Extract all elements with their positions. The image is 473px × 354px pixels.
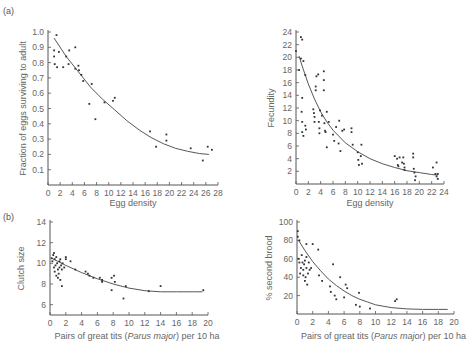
data-point bbox=[300, 267, 302, 269]
data-point bbox=[319, 132, 321, 134]
data-point bbox=[304, 260, 306, 262]
data-point bbox=[360, 155, 362, 157]
y-tick-label: 22 bbox=[283, 40, 293, 50]
data-point bbox=[297, 236, 299, 238]
x-tick-label: 8 bbox=[343, 187, 348, 197]
data-point bbox=[54, 258, 56, 260]
y-axis-label: Fecundity bbox=[266, 88, 276, 128]
data-point bbox=[351, 127, 353, 129]
data-point bbox=[355, 304, 357, 306]
data-point bbox=[415, 176, 417, 178]
x-tick-label: 22 bbox=[427, 187, 437, 197]
x-tick-label: 28 bbox=[213, 188, 223, 198]
data-point bbox=[62, 66, 64, 68]
y-tick-label: 2 bbox=[287, 166, 292, 176]
y-tick-label: 0.9 bbox=[32, 42, 44, 52]
data-point bbox=[202, 160, 204, 162]
y-axis-label: Fraction of eggs surviving to adult bbox=[18, 41, 28, 176]
y-tick-label: 18 bbox=[283, 65, 293, 75]
y-tick-label: 0.3 bbox=[32, 134, 44, 144]
fit-curve bbox=[54, 38, 209, 154]
x-tick-label: 2 bbox=[310, 317, 315, 327]
y-tick-label: 10 bbox=[283, 116, 293, 126]
x-tick-label: 16 bbox=[140, 188, 150, 198]
y-tick-label: 12 bbox=[283, 103, 293, 113]
data-point bbox=[65, 258, 67, 260]
data-point bbox=[93, 277, 95, 279]
data-point bbox=[61, 285, 63, 287]
y-tick-label: 0.8 bbox=[32, 58, 44, 68]
y-tick-label: 40 bbox=[284, 272, 294, 282]
data-point bbox=[301, 121, 303, 123]
data-point bbox=[330, 291, 332, 293]
data-point bbox=[437, 173, 439, 175]
y-tick-label: 0.4 bbox=[32, 119, 44, 129]
data-point bbox=[402, 157, 404, 159]
data-point bbox=[111, 289, 113, 291]
data-point bbox=[89, 275, 91, 277]
data-point bbox=[114, 281, 116, 283]
data-point bbox=[394, 155, 396, 157]
data-point bbox=[53, 56, 55, 58]
data-point bbox=[54, 271, 56, 273]
data-point bbox=[68, 50, 70, 52]
x-tick-label: 4 bbox=[70, 188, 75, 198]
x-tick-label: 20 bbox=[415, 187, 425, 197]
y-tick-label: 0.1 bbox=[32, 165, 44, 175]
data-point bbox=[68, 63, 70, 65]
data-point bbox=[303, 60, 305, 62]
x-tick-label: 0 bbox=[295, 317, 300, 327]
data-point bbox=[357, 159, 359, 161]
data-point bbox=[300, 58, 302, 60]
data-point bbox=[303, 263, 305, 265]
data-point bbox=[56, 34, 58, 36]
data-point bbox=[202, 289, 204, 291]
y-tick-label: 12 bbox=[37, 238, 47, 248]
data-point bbox=[394, 300, 396, 302]
data-point bbox=[312, 108, 314, 110]
data-point bbox=[59, 279, 61, 281]
y-tick-label: 1.0 bbox=[32, 27, 44, 37]
data-point bbox=[104, 102, 106, 104]
x-tick-label: 14 bbox=[378, 187, 388, 197]
data-point bbox=[346, 287, 348, 289]
data-point bbox=[403, 163, 405, 165]
data-point bbox=[316, 75, 318, 77]
data-point bbox=[404, 169, 406, 171]
data-point bbox=[113, 275, 115, 277]
data-point bbox=[85, 271, 87, 273]
data-point bbox=[305, 129, 307, 131]
data-point bbox=[309, 269, 311, 271]
x-tick-label: 14 bbox=[156, 318, 166, 328]
data-point bbox=[339, 276, 341, 278]
data-point bbox=[65, 56, 67, 58]
data-point bbox=[298, 258, 300, 260]
data-point bbox=[304, 280, 306, 282]
y-tick-label: 8 bbox=[41, 279, 46, 289]
data-point bbox=[345, 284, 347, 286]
x-tick-label: 8 bbox=[111, 318, 116, 328]
data-point bbox=[88, 103, 90, 105]
x-tick-label: 12 bbox=[116, 188, 126, 198]
data-point bbox=[148, 290, 150, 292]
data-point bbox=[56, 262, 58, 264]
data-point bbox=[399, 157, 401, 159]
data-point bbox=[304, 125, 306, 127]
data-point bbox=[437, 178, 439, 180]
data-point bbox=[65, 256, 67, 258]
data-point bbox=[305, 276, 307, 278]
x-tick-label: 14 bbox=[128, 188, 138, 198]
data-point bbox=[307, 273, 309, 275]
data-point bbox=[326, 111, 328, 113]
y-tick-label: 6 bbox=[41, 300, 46, 310]
data-point bbox=[302, 269, 304, 271]
x-tick-label: 16 bbox=[172, 318, 182, 328]
data-point bbox=[303, 135, 305, 137]
data-point bbox=[338, 143, 340, 145]
data-point bbox=[58, 51, 60, 53]
data-point bbox=[300, 36, 302, 38]
data-point bbox=[295, 50, 297, 52]
data-point bbox=[358, 164, 360, 166]
data-point bbox=[207, 146, 209, 148]
data-point bbox=[315, 86, 317, 88]
